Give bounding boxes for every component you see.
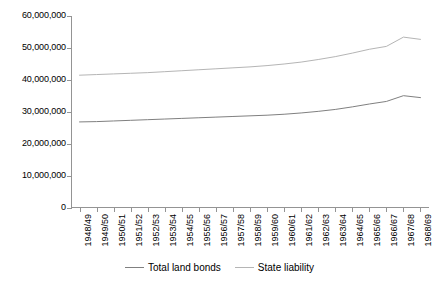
x-axis-tick-label: 1951/52 bbox=[135, 214, 144, 247]
legend-label: State liability bbox=[258, 262, 314, 273]
x-axis-tick-mark bbox=[403, 208, 404, 212]
series-line bbox=[80, 37, 421, 75]
x-axis-tick-label: 1955/56 bbox=[203, 214, 212, 247]
x-axis-tick-label: 1962/63 bbox=[322, 214, 331, 247]
x-axis-tick-label: 1956/57 bbox=[220, 214, 229, 247]
x-axis-tick-mark bbox=[114, 208, 115, 212]
legend-entry[interactable]: State liability bbox=[235, 262, 314, 273]
x-axis-tick-label: 1963/64 bbox=[339, 214, 348, 247]
y-axis-tick-label: 0 bbox=[0, 203, 66, 212]
x-axis-tick-mark bbox=[199, 208, 200, 212]
x-axis-tick-label: 1950/51 bbox=[118, 214, 127, 247]
x-axis-tick-label: 1953/54 bbox=[169, 214, 178, 247]
x-axis-tick-label: 1959/60 bbox=[271, 214, 280, 247]
x-axis-tick-mark bbox=[301, 208, 302, 212]
x-axis-tick-mark bbox=[233, 208, 234, 212]
x-axis-tick-mark bbox=[284, 208, 285, 212]
x-axis-tick-mark bbox=[386, 208, 387, 212]
x-axis-tick-mark bbox=[420, 208, 421, 212]
x-axis-tick-label: 1954/55 bbox=[186, 214, 195, 247]
x-axis-tick-mark bbox=[352, 208, 353, 212]
y-axis-tick-label: 40,000,000 bbox=[0, 75, 66, 84]
legend-label: Total land bonds bbox=[148, 262, 221, 273]
legend-entry[interactable]: Total land bonds bbox=[125, 262, 221, 273]
x-axis-tick-mark bbox=[97, 208, 98, 212]
x-axis-tick-label: 1965/66 bbox=[373, 214, 382, 247]
x-axis-tick-label: 1967/68 bbox=[407, 214, 416, 247]
y-axis-tick-label: 60,000,000 bbox=[0, 11, 66, 20]
x-axis-tick-label: 1968/69 bbox=[424, 214, 433, 247]
x-axis-tick-label: 1966/67 bbox=[390, 214, 399, 247]
legend-line-swatch bbox=[235, 267, 254, 268]
chart-legend: Total land bondsState liability bbox=[0, 262, 439, 273]
line-chart: 010,000,00020,000,00030,000,00040,000,00… bbox=[0, 0, 439, 291]
x-axis-tick-mark bbox=[80, 208, 81, 212]
x-axis-tick-mark bbox=[250, 208, 251, 212]
x-axis-tick-mark bbox=[318, 208, 319, 212]
y-axis-tick-label: 30,000,000 bbox=[0, 107, 66, 116]
x-axis-tick-mark bbox=[335, 208, 336, 212]
x-axis-tick-mark bbox=[131, 208, 132, 212]
x-axis-tick-label: 1949/50 bbox=[101, 214, 110, 247]
x-axis-tick-mark bbox=[216, 208, 217, 212]
legend-line-swatch bbox=[125, 267, 144, 268]
x-axis-tick-mark bbox=[148, 208, 149, 212]
y-axis-tick-label: 20,000,000 bbox=[0, 139, 66, 148]
x-axis-tick-label: 1948/49 bbox=[84, 214, 93, 247]
x-axis-tick-mark bbox=[182, 208, 183, 212]
x-axis-tick-label: 1957/58 bbox=[237, 214, 246, 247]
y-axis-tick-label: 10,000,000 bbox=[0, 171, 66, 180]
y-axis-tick-mark bbox=[67, 208, 72, 209]
plot-area bbox=[71, 16, 429, 208]
x-axis-tick-label: 1961/62 bbox=[305, 214, 314, 247]
series-line bbox=[80, 96, 421, 122]
x-axis-tick-mark bbox=[369, 208, 370, 212]
y-axis-tick-label: 50,000,000 bbox=[0, 43, 66, 52]
x-axis-tick-label: 1952/53 bbox=[152, 214, 161, 247]
x-axis-tick-label: 1960/61 bbox=[288, 214, 297, 247]
x-axis-tick-mark bbox=[165, 208, 166, 212]
x-axis-tick-label: 1964/65 bbox=[356, 214, 365, 247]
y-axis-labels: 010,000,00020,000,00030,000,00040,000,00… bbox=[0, 0, 66, 215]
x-axis-tick-mark bbox=[267, 208, 268, 212]
plot-svg bbox=[71, 16, 429, 208]
x-axis-tick-label: 1958/59 bbox=[254, 214, 263, 247]
